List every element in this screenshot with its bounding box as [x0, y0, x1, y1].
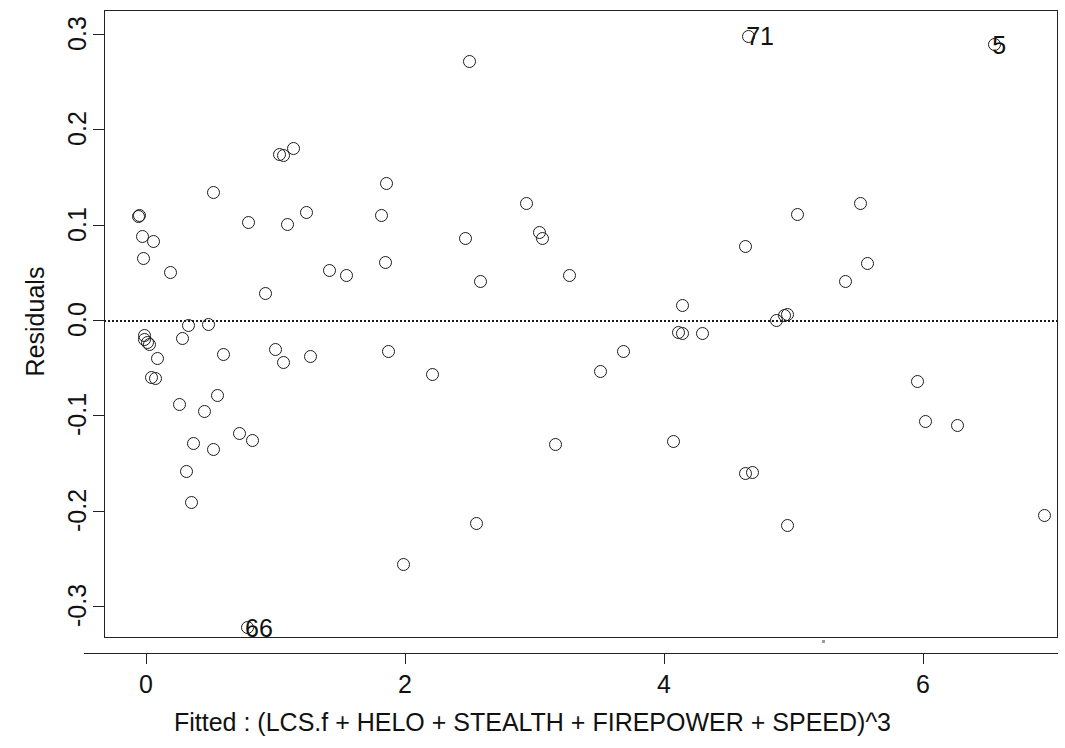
y-tick — [93, 415, 104, 416]
zero-reference-line — [104, 320, 1058, 322]
data-point — [176, 332, 189, 345]
y-tick-label: 0.0 — [63, 285, 92, 355]
x-tick-label: 0 — [116, 670, 176, 699]
data-point — [300, 206, 313, 219]
x-tick — [664, 653, 665, 664]
x-tick — [146, 653, 147, 664]
y-tick-label: 0.1 — [63, 189, 92, 259]
x-axis-title: Fitted : (LCS.f + HELO + STEALTH + FIREP… — [0, 708, 1065, 737]
y-tick — [93, 34, 104, 35]
data-point — [536, 232, 549, 245]
data-point — [281, 218, 294, 231]
data-point — [594, 365, 607, 378]
x-tick-label: 2 — [375, 670, 435, 699]
scan-speck — [822, 640, 825, 643]
y-tick — [93, 511, 104, 512]
data-point — [233, 427, 246, 440]
y-tick-label: -0.3 — [63, 570, 92, 640]
plot-frame — [104, 10, 1058, 638]
data-point — [375, 209, 388, 222]
x-tick-label: 4 — [634, 670, 694, 699]
data-point — [207, 443, 220, 456]
data-point — [137, 252, 150, 265]
data-point — [269, 343, 282, 356]
data-point — [861, 257, 874, 270]
data-point — [242, 216, 255, 229]
data-point — [382, 345, 395, 358]
x-tick — [923, 653, 924, 664]
outlier-label: 5 — [992, 31, 1006, 60]
data-point — [180, 465, 193, 478]
y-tick-label: -0.1 — [63, 380, 92, 450]
data-point — [474, 275, 487, 288]
data-point — [246, 434, 259, 447]
data-point — [149, 372, 162, 385]
data-point — [198, 405, 211, 418]
y-tick-label: 0.2 — [63, 94, 92, 164]
data-point — [207, 186, 220, 199]
data-point — [791, 208, 804, 221]
y-axis-title: Residuals — [21, 242, 50, 402]
data-point — [202, 318, 215, 331]
data-point — [563, 269, 576, 282]
y-tick — [93, 320, 104, 321]
data-point — [426, 368, 439, 381]
data-point — [259, 287, 272, 300]
x-tick-label: 6 — [893, 670, 953, 699]
data-point — [781, 308, 794, 321]
data-point — [746, 466, 759, 479]
y-tick — [93, 606, 104, 607]
data-point — [217, 348, 230, 361]
data-point — [549, 438, 562, 451]
data-point — [304, 350, 317, 363]
y-tick — [93, 225, 104, 226]
data-point — [676, 327, 689, 340]
y-tick — [93, 129, 104, 130]
y-tick-label: 0.3 — [63, 0, 92, 69]
data-point — [340, 269, 353, 282]
data-point — [287, 142, 300, 155]
data-point — [164, 266, 177, 279]
data-point — [211, 389, 224, 402]
data-point — [151, 352, 164, 365]
data-point — [133, 209, 146, 222]
data-point — [667, 435, 680, 448]
y-tick-label: -0.2 — [63, 475, 92, 545]
data-point — [1038, 509, 1051, 522]
data-point — [676, 299, 689, 312]
x-axis-line — [84, 653, 1058, 654]
outlier-label: 66 — [245, 614, 273, 643]
residual-scatter-plot: 0.30.20.10.0-0.1-0.2-0.3 0246 71566 Resi… — [0, 0, 1065, 748]
outlier-label: 71 — [746, 22, 774, 51]
data-point — [781, 519, 794, 532]
x-tick — [405, 653, 406, 664]
